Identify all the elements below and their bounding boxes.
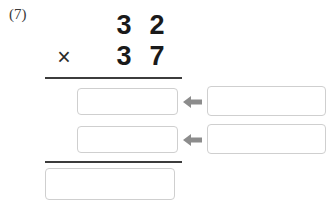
arrow-left-icon [183,132,203,148]
multiplication-worksheet-problem: (7) 3 2 × 3 7 [0,0,334,212]
multiplicand-tens-digit: 3 [113,12,135,39]
multiplier-tens-digit: 3 [113,43,135,70]
partial-product-1-right-box[interactable] [207,86,326,116]
final-answer-box[interactable] [45,168,175,200]
partial-product-2-left-box[interactable] [77,126,178,153]
multiplication-operator: × [52,45,76,70]
upper-horizontal-rule [45,77,182,79]
partial-product-2-right-box[interactable] [207,124,326,154]
multiplicand-ones-digit: 2 [146,12,168,39]
multiplier-ones-digit: 7 [146,43,168,70]
lower-horizontal-rule [45,161,182,163]
partial-product-1-left-box[interactable] [77,88,178,115]
problem-number-label: (7) [9,6,27,23]
arrow-left-icon [183,94,203,110]
